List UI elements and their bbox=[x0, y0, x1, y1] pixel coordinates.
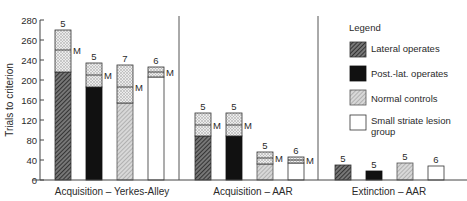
legend-swatch-striate bbox=[350, 115, 366, 130]
median-marker: M bbox=[135, 82, 143, 93]
y-axis-label: Trials to criterion bbox=[4, 63, 15, 137]
group-label: Extinction – AAR bbox=[352, 186, 426, 197]
bar-base bbox=[226, 136, 242, 180]
legend-label: Post.-lat. operates bbox=[371, 68, 448, 79]
y-tick-label: 280 bbox=[21, 15, 37, 26]
bar bbox=[397, 163, 413, 180]
chart: 04080120160200240260280 Trials to criter… bbox=[0, 0, 467, 201]
y-axis: 04080120160200240260280 bbox=[21, 15, 44, 186]
median-marker: M bbox=[213, 120, 221, 131]
bar-range bbox=[55, 30, 71, 72]
group-label: Acquisition – Yerkes-Alley bbox=[55, 186, 170, 197]
legend-label: group bbox=[371, 126, 395, 137]
bar-n-label: 7 bbox=[122, 53, 127, 64]
y-tick-label: 160 bbox=[21, 95, 37, 106]
legend-swatch-postlat bbox=[350, 66, 366, 81]
legend-label: Normal controls bbox=[371, 93, 438, 104]
median-marker: M bbox=[166, 67, 174, 78]
legend-swatch-lateral bbox=[350, 42, 366, 57]
bar-n-label: 5 bbox=[60, 18, 65, 29]
y-tick-label: 80 bbox=[26, 135, 37, 146]
bar-n-label: 5 bbox=[402, 151, 407, 162]
median-marker: M bbox=[275, 153, 283, 164]
bar-range bbox=[195, 113, 211, 136]
bar bbox=[366, 171, 382, 180]
bar-n-label: 5 bbox=[231, 101, 236, 112]
bar-base bbox=[195, 136, 211, 180]
bar-base bbox=[86, 87, 102, 180]
legend-title: Legend bbox=[349, 22, 381, 33]
bar-n-label: 5 bbox=[371, 159, 376, 170]
legend-label: Lateral operates bbox=[371, 43, 440, 54]
bar-n-label: 5 bbox=[262, 140, 267, 151]
bar-base bbox=[257, 164, 273, 180]
y-tick-label: 240 bbox=[21, 55, 37, 66]
y-tick-label: 200 bbox=[21, 75, 37, 86]
bar-base bbox=[55, 72, 71, 180]
bar-range bbox=[226, 113, 242, 136]
group-label: Acquisition – AAR bbox=[213, 186, 293, 197]
median-marker: M bbox=[104, 70, 112, 81]
median-marker: M bbox=[306, 155, 314, 166]
legend: Legend Lateral operates Post.-lat. opera… bbox=[349, 22, 451, 137]
median-marker: M bbox=[244, 120, 252, 131]
bar bbox=[428, 166, 444, 180]
bar-base bbox=[288, 163, 304, 180]
bar-n-label: 6 bbox=[433, 154, 438, 165]
legend-label: Small striate lesion bbox=[371, 115, 451, 126]
bar-base bbox=[148, 77, 164, 180]
bar-n-label: 5 bbox=[91, 51, 96, 62]
bar-n-label: 5 bbox=[340, 153, 345, 164]
bar-base bbox=[117, 103, 133, 180]
bar-n-label: 6 bbox=[293, 145, 298, 156]
y-tick-label: 40 bbox=[26, 155, 37, 166]
bar-n-label: 6 bbox=[153, 55, 158, 66]
bar bbox=[335, 165, 351, 180]
y-tick-label: 120 bbox=[21, 115, 37, 126]
bar-n-label: 5 bbox=[200, 101, 205, 112]
y-tick-label: 260 bbox=[21, 35, 37, 46]
median-marker: M bbox=[73, 45, 81, 56]
bar-range bbox=[117, 65, 133, 103]
legend-swatch-normal bbox=[350, 90, 366, 105]
